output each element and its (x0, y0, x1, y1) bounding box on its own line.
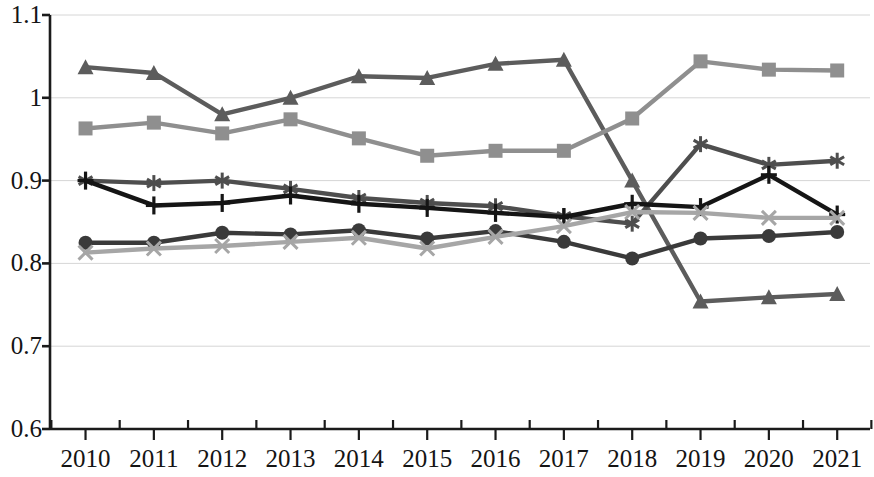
x-axis-tick-label: 2012 (184, 446, 260, 472)
series-line (86, 61, 838, 155)
x-axis-tick-label: 2019 (663, 446, 739, 472)
x-axis-tick-label: 2020 (731, 446, 807, 472)
data-point-square (489, 144, 503, 158)
y-axis-tick-label: 0.6 (0, 416, 42, 441)
data-point-circle (830, 225, 844, 239)
x-axis-tick-label: 2010 (48, 446, 124, 472)
data-point-square (557, 144, 571, 158)
y-axis-tick-label: 0.9 (0, 168, 42, 193)
data-point-circle (694, 232, 708, 246)
x-axis-tick-label: 2017 (526, 446, 602, 472)
data-point-circle (557, 235, 571, 249)
data-point-circle (215, 226, 229, 240)
chart-plot-area (0, 0, 874, 477)
data-point-circle (625, 251, 639, 265)
x-axis-tick-label: 2014 (321, 446, 397, 472)
y-axis-tick-label: 0.8 (0, 250, 42, 275)
data-point-plus (214, 194, 230, 212)
data-point-square (352, 131, 366, 145)
data-point-square (694, 54, 708, 68)
data-point-square (147, 116, 161, 130)
data-point-plus (78, 172, 94, 190)
data-point-square (79, 121, 93, 135)
data-point-circle (352, 223, 366, 237)
series-line (86, 212, 838, 253)
x-axis-tick-label: 2015 (389, 446, 465, 472)
y-axis-tick-label: 1.1 (0, 2, 42, 27)
data-point-square (762, 63, 776, 77)
y-axis-tick-label: 1 (0, 85, 42, 110)
data-point-plus (146, 196, 162, 214)
line-chart: 1.110.90.80.70.6 20102011201220132014201… (0, 0, 874, 477)
data-point-square (420, 149, 434, 163)
data-point-square (625, 112, 639, 126)
x-axis-tick-label: 2021 (799, 446, 874, 472)
x-axis-tick-label: 2016 (458, 446, 534, 472)
data-point-plus (829, 206, 845, 224)
x-axis-tick-label: 2013 (253, 446, 329, 472)
series-group-x (79, 205, 845, 260)
x-axis-tick-label: 2011 (116, 446, 192, 472)
x-axis-tick-label: 2018 (594, 446, 670, 472)
data-point-square (284, 112, 298, 126)
data-point-circle (284, 227, 298, 241)
data-point-square (215, 126, 229, 140)
data-point-square (830, 63, 844, 77)
series-group-asterisk (79, 136, 845, 231)
data-point-circle (762, 229, 776, 243)
y-axis-tick-label: 0.7 (0, 333, 42, 358)
